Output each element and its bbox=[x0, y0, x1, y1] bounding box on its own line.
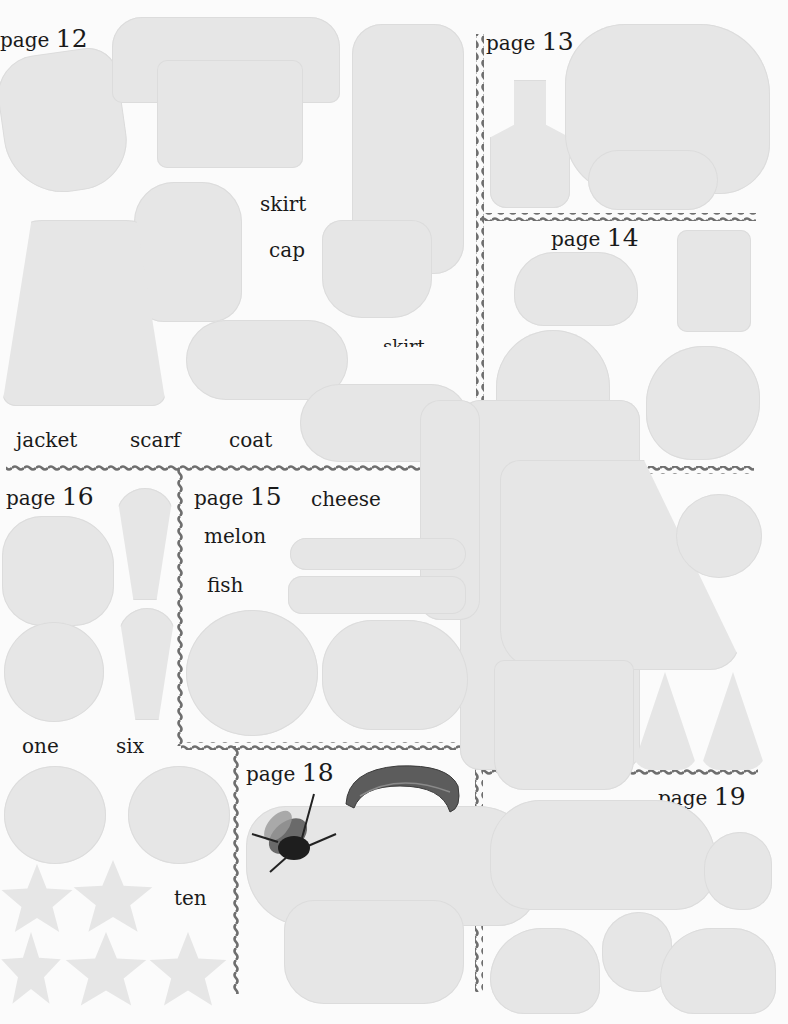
sticker-snail-shell-4[interactable] bbox=[660, 928, 776, 1014]
sticker-plate-2[interactable] bbox=[128, 766, 230, 864]
sticker-melon-slice[interactable] bbox=[186, 610, 318, 736]
word-six: six bbox=[116, 736, 144, 756]
word-one: one bbox=[22, 736, 59, 756]
sticker-box[interactable] bbox=[677, 230, 751, 332]
sticker-plate-1[interactable] bbox=[4, 766, 106, 864]
page-number: 14 bbox=[607, 223, 639, 252]
page-prefix: page bbox=[486, 31, 535, 55]
page-prefix: page bbox=[551, 227, 600, 251]
sticker-tshirt-body[interactable] bbox=[157, 60, 303, 168]
page-13-label: page 13 bbox=[486, 29, 574, 54]
page-prefix: page bbox=[246, 762, 295, 786]
sticker-spoon[interactable] bbox=[290, 538, 466, 570]
word-scarf: scarf bbox=[130, 430, 180, 450]
sticker-cloud-large[interactable] bbox=[490, 800, 716, 910]
page-number: 18 bbox=[302, 758, 334, 787]
sticker-sheet: page 12 skirt cap skirt jacket scarf coa… bbox=[0, 0, 788, 1024]
sticker-scarf-legs[interactable] bbox=[322, 220, 432, 318]
word-cap: cap bbox=[269, 240, 305, 260]
page-number: 16 bbox=[62, 482, 94, 511]
sticker-blob[interactable] bbox=[646, 346, 760, 460]
page-12-label: page 12 bbox=[0, 26, 88, 51]
page-18-label: page 18 bbox=[246, 760, 334, 785]
word-fish: fish bbox=[207, 575, 243, 595]
page-prefix: page bbox=[194, 486, 243, 510]
page-number: 13 bbox=[542, 27, 574, 56]
word-jacket: jacket bbox=[16, 430, 77, 450]
word-skirt: skirt bbox=[260, 194, 306, 214]
sticker-snail-shell-1[interactable] bbox=[704, 832, 772, 910]
page-number: 12 bbox=[56, 24, 88, 53]
page-prefix: page bbox=[6, 486, 55, 510]
sticker-bush[interactable] bbox=[2, 516, 114, 626]
sticker-teddy-feet[interactable] bbox=[588, 150, 718, 210]
page-number: 15 bbox=[250, 482, 282, 511]
sticker-big-figure-legs[interactable] bbox=[494, 660, 634, 790]
page-prefix: page bbox=[0, 28, 49, 52]
word-melon: melon bbox=[204, 526, 266, 546]
sticker-mitten[interactable] bbox=[134, 182, 242, 322]
sticker-tree-base[interactable] bbox=[284, 900, 464, 1004]
caterpillar-icon[interactable] bbox=[338, 756, 464, 816]
sticker-fork[interactable] bbox=[288, 576, 466, 614]
page-number: 19 bbox=[714, 782, 746, 811]
page-16-label: page 16 bbox=[6, 484, 94, 509]
sticker-snail-shell-2[interactable] bbox=[490, 928, 600, 1014]
page-14-label: page 14 bbox=[551, 225, 639, 250]
word-coat: coat bbox=[229, 430, 272, 450]
word-ten: ten bbox=[174, 888, 207, 908]
sticker-cake[interactable] bbox=[322, 620, 468, 730]
page-15-label: page 15 bbox=[194, 484, 282, 509]
sticker-ball[interactable] bbox=[4, 622, 104, 722]
sticker-cloud[interactable] bbox=[514, 252, 638, 326]
word-cheese: cheese bbox=[311, 489, 381, 509]
sticker-circle-right[interactable] bbox=[676, 494, 762, 578]
bee-icon[interactable] bbox=[248, 786, 340, 876]
